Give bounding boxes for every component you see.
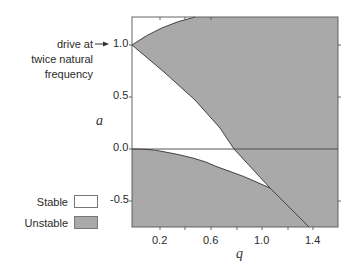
y-tick-label: -0.5 bbox=[110, 193, 129, 205]
x-tick-label: 0.2 bbox=[152, 234, 167, 246]
x-axis-title: q bbox=[236, 246, 243, 262]
legend-stable: Stable bbox=[12, 195, 98, 208]
legend-unstable-label: Unstable bbox=[12, 217, 68, 229]
annotation-arrow-head bbox=[103, 42, 109, 47]
y-tick-label: 0.5 bbox=[113, 89, 128, 101]
legend-stable-label: Stable bbox=[12, 196, 68, 208]
annotation-line-2: twice natural bbox=[8, 52, 93, 67]
legend-unstable-swatch bbox=[74, 216, 98, 229]
annotation-line-3: frequency bbox=[8, 67, 93, 82]
annotation-text: drive at twice natural frequency bbox=[8, 37, 93, 82]
x-tick-label: 1.4 bbox=[305, 234, 320, 246]
annotation-line-1: drive at bbox=[8, 37, 93, 52]
y-axis-title: a bbox=[96, 113, 103, 129]
x-tick-label: 1.0 bbox=[254, 234, 269, 246]
x-tick-label: 0.6 bbox=[203, 234, 218, 246]
y-tick-label: 0.0 bbox=[113, 141, 128, 153]
y-tick-label: 1.0 bbox=[113, 37, 128, 49]
legend-unstable: Unstable bbox=[12, 216, 98, 229]
legend-stable-swatch bbox=[74, 195, 98, 208]
